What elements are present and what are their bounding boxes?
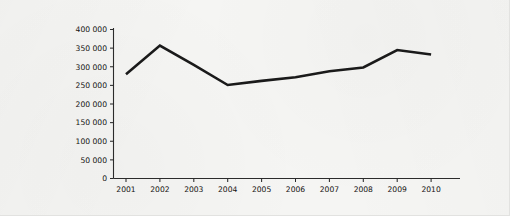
chart-plot-area: 050 000100 000150 000200 000250 000300 0…	[0, 0, 510, 216]
x-tick-label: 2010	[421, 185, 440, 194]
y-tick-label: 200 000	[76, 100, 108, 109]
series-line	[126, 46, 431, 85]
x-tick-label: 2006	[286, 185, 305, 194]
y-tick-label: 250 000	[76, 81, 108, 90]
y-tick-label: 0	[102, 174, 107, 183]
y-tick-label: 400 000	[76, 25, 108, 34]
x-tick-label: 2004	[218, 185, 237, 194]
data-series-group	[126, 46, 431, 85]
x-tick-label: 2005	[252, 185, 271, 194]
x-axis: 2001200220032004200520062007200820092010	[114, 179, 461, 194]
x-tick-label: 2001	[116, 185, 135, 194]
y-tick-label: 350 000	[76, 44, 108, 53]
line-chart-figure: 050 000100 000150 000200 000250 000300 0…	[0, 0, 510, 216]
y-tick-label: 100 000	[76, 137, 108, 146]
x-tick-label: 2007	[320, 185, 339, 194]
x-tick-label: 2008	[354, 185, 373, 194]
x-tick-label: 2009	[388, 185, 407, 194]
y-tick-label: 150 000	[76, 118, 108, 127]
y-axis: 050 000100 000150 000200 000250 000300 0…	[76, 25, 114, 183]
x-tick-label: 2003	[184, 185, 203, 194]
y-tick-label: 300 000	[76, 63, 108, 72]
y-tick-label: 50 000	[80, 156, 107, 165]
x-tick-label: 2002	[150, 185, 169, 194]
